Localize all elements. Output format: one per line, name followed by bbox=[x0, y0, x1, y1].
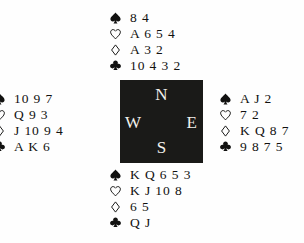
hand-south: K Q 6 5 3 K J 10 8 6 5 Q J bbox=[110, 167, 191, 231]
west-club-row: A K 6 bbox=[0, 139, 64, 155]
east-diamond-cards: K Q 8 7 bbox=[233, 123, 289, 139]
compass-north-label: N bbox=[120, 86, 203, 103]
west-heart-row: Q 9 3 bbox=[0, 107, 64, 123]
north-club-cards: 10 4 3 2 bbox=[123, 58, 181, 74]
north-diamond-cards: A 3 2 bbox=[123, 42, 164, 58]
heart-icon bbox=[220, 109, 233, 121]
west-club-cards: A K 6 bbox=[7, 139, 51, 155]
spade-icon bbox=[0, 93, 7, 105]
south-club-cards: Q J bbox=[123, 215, 151, 231]
east-heart-row: 7 2 bbox=[220, 107, 289, 123]
east-spade-row: A J 2 bbox=[220, 91, 289, 107]
compass-south-label: S bbox=[120, 139, 203, 156]
east-heart-cards: 7 2 bbox=[233, 107, 260, 123]
club-icon bbox=[220, 141, 233, 153]
west-heart-cards: Q 9 3 bbox=[7, 107, 49, 123]
north-heart-cards: A 6 5 4 bbox=[123, 26, 176, 42]
east-spade-cards: A J 2 bbox=[233, 91, 272, 107]
south-diamond-row: 6 5 bbox=[110, 199, 191, 215]
bridge-deal-diagram: 8 4 A 6 5 4 A 3 2 10 4 3 2 10 9 7 bbox=[0, 0, 304, 243]
hand-west: 10 9 7 Q 9 3 J 10 9 4 A K 6 bbox=[0, 91, 64, 155]
east-club-cards: 9 8 7 5 bbox=[233, 139, 283, 155]
west-spade-row: 10 9 7 bbox=[0, 91, 64, 107]
compass-east-label: E bbox=[187, 113, 197, 130]
hand-north: 8 4 A 6 5 4 A 3 2 10 4 3 2 bbox=[110, 10, 181, 74]
spade-icon bbox=[110, 169, 123, 181]
west-diamond-cards: J 10 9 4 bbox=[7, 123, 64, 139]
diamond-icon bbox=[220, 125, 233, 137]
north-club-row: 10 4 3 2 bbox=[110, 58, 181, 74]
compass-west-label: W bbox=[125, 113, 141, 130]
heart-icon bbox=[0, 109, 7, 121]
club-icon bbox=[0, 141, 7, 153]
west-spade-cards: 10 9 7 bbox=[7, 91, 53, 107]
club-icon bbox=[110, 60, 123, 72]
east-club-row: 9 8 7 5 bbox=[220, 139, 289, 155]
diamond-icon bbox=[110, 201, 123, 213]
south-heart-cards: K J 10 8 bbox=[123, 183, 183, 199]
south-heart-row: K J 10 8 bbox=[110, 183, 191, 199]
south-spade-cards: K Q 6 5 3 bbox=[123, 167, 191, 183]
south-diamond-cards: 6 5 bbox=[123, 199, 150, 215]
north-diamond-row: A 3 2 bbox=[110, 42, 181, 58]
east-diamond-row: K Q 8 7 bbox=[220, 123, 289, 139]
spade-icon bbox=[220, 93, 233, 105]
spade-icon bbox=[110, 12, 123, 24]
south-spade-row: K Q 6 5 3 bbox=[110, 167, 191, 183]
hand-east: A J 2 7 2 K Q 8 7 9 8 7 5 bbox=[220, 91, 289, 155]
heart-icon bbox=[110, 185, 123, 197]
south-club-row: Q J bbox=[110, 215, 191, 231]
north-spade-cards: 8 4 bbox=[123, 10, 150, 26]
club-icon bbox=[110, 217, 123, 229]
diamond-icon bbox=[0, 125, 7, 137]
north-spade-row: 8 4 bbox=[110, 10, 181, 26]
compass-box: N W E S bbox=[120, 80, 203, 163]
diamond-icon bbox=[110, 44, 123, 56]
heart-icon bbox=[110, 28, 123, 40]
north-heart-row: A 6 5 4 bbox=[110, 26, 181, 42]
west-diamond-row: J 10 9 4 bbox=[0, 123, 64, 139]
